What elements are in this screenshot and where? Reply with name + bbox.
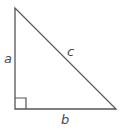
right-angle-marker (15, 98, 26, 109)
side-b-label: b (61, 113, 69, 126)
side-a-label: a (4, 52, 12, 65)
right-triangle-diagram: a b c (0, 0, 126, 132)
triangle-outline (15, 8, 116, 109)
hypotenuse-c-label: c (67, 45, 74, 58)
